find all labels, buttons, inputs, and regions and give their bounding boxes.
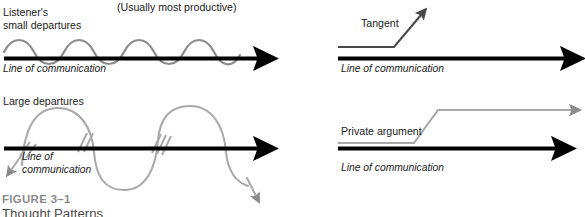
thought-patterns-figure: Listener's small departures (Usually mos… [0, 0, 585, 217]
large-departures-label: Large departures [3, 95, 84, 108]
figure-drawing-canvas [0, 0, 585, 217]
crossing-tick-marks-right [152, 134, 171, 155]
private-argument-label: Private argument [341, 125, 422, 138]
line-of-communication-label-bottom-left: Line of communication [22, 151, 91, 176]
panel-small-departures [4, 40, 258, 64]
large-departures-end-arrow [247, 178, 256, 196]
figure-title: Thought Patterns [2, 208, 103, 217]
figure-number: FIGURE 3–1 [2, 193, 71, 206]
line-of-communication-label-top-right: Line of communication [341, 63, 444, 76]
small-departures-label: Listener's small departures [3, 6, 81, 31]
tangent-label: Tangent [361, 17, 399, 30]
line-of-communication-label-bottom-right: Line of communication [341, 162, 444, 175]
small-departures-curve [4, 40, 240, 64]
usually-most-productive-annotation: (Usually most productive) [117, 1, 237, 14]
line-of-communication-label-top-left: Line of communication [3, 63, 106, 76]
